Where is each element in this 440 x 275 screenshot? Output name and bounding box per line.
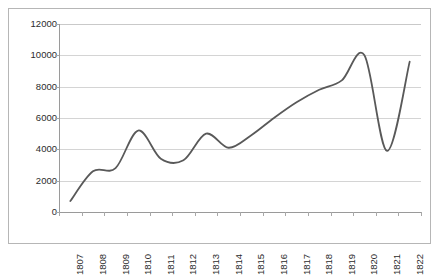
- x-tick-2: [104, 212, 105, 216]
- x-axis-label-1807: 1807: [74, 245, 85, 275]
- x-axis-label-1821: 1821: [391, 245, 402, 275]
- x-tick-3: [127, 212, 128, 216]
- x-axis-label-1816: 1816: [278, 245, 289, 275]
- x-tick-10: [285, 212, 286, 216]
- y-axis-label-10000: 10000: [13, 50, 57, 60]
- x-tick-13: [353, 212, 354, 216]
- plot-area: [59, 24, 421, 212]
- x-tick-0: [59, 212, 60, 216]
- y-axis-label-4000: 4000: [13, 144, 57, 154]
- series-line-group: [59, 24, 421, 212]
- x-axis-label-1817: 1817: [301, 245, 312, 275]
- x-tick-16: [421, 212, 422, 216]
- y-axis-label-2000: 2000: [13, 176, 57, 186]
- x-axis-label-1813: 1813: [210, 245, 221, 275]
- x-axis-label-1809: 1809: [120, 245, 131, 275]
- x-tick-7: [217, 212, 218, 216]
- x-tick-1: [82, 212, 83, 216]
- x-axis-label-1818: 1818: [323, 245, 334, 275]
- x-tick-5: [172, 212, 173, 216]
- y-axis-label-12000: 12000: [13, 19, 57, 29]
- chart-frame: 020004000600080001000012000 180718081809…: [8, 8, 431, 244]
- series-line-1: [70, 53, 409, 201]
- x-axis-label-group: 1807180818091810181118121813181418151816…: [59, 217, 421, 245]
- y-axis-label-8000: 8000: [13, 82, 57, 92]
- x-tick-11: [308, 212, 309, 216]
- x-tick-8: [240, 212, 241, 216]
- x-axis-label-1811: 1811: [165, 245, 176, 275]
- x-axis-label-1810: 1810: [142, 245, 153, 275]
- x-axis-label-1814: 1814: [233, 245, 244, 275]
- y-axis-label-group: 020004000600080001000012000: [11, 9, 57, 245]
- x-tick-15: [398, 212, 399, 216]
- x-tick-12: [331, 212, 332, 216]
- x-axis-label-1819: 1819: [346, 245, 357, 275]
- x-axis-label-1820: 1820: [368, 245, 379, 275]
- x-axis-label-1808: 1808: [97, 245, 108, 275]
- y-axis-label-0: 0: [13, 207, 57, 217]
- x-tick-14: [376, 212, 377, 216]
- x-tick-4: [150, 212, 151, 216]
- y-axis-label-6000: 6000: [13, 113, 57, 123]
- x-tick-9: [263, 212, 264, 216]
- x-tick-6: [195, 212, 196, 216]
- x-axis-label-1815: 1815: [255, 245, 266, 275]
- x-axis-label-1812: 1812: [187, 245, 198, 275]
- x-axis-label-1822: 1822: [414, 245, 425, 275]
- chart-plot-wrapper: 020004000600080001000012000 180718081809…: [9, 9, 432, 245]
